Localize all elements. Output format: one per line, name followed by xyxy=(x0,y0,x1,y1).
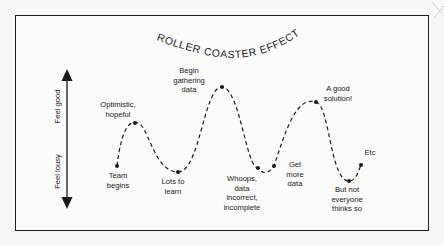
point-etc xyxy=(359,163,363,167)
axis-label-feel-good: Feel good xyxy=(53,87,62,127)
label-whoops: Whoops, data incorrect, incomplete xyxy=(216,174,268,212)
label-team-begins: Team begins xyxy=(98,171,138,190)
label-good-solution: A good solution! xyxy=(318,84,358,103)
point-begin-gathering xyxy=(220,85,224,89)
diagram-title-text: ROLLER COASTER EFFECT xyxy=(156,26,302,60)
mood-axis xyxy=(62,69,73,209)
point-team-begins xyxy=(115,164,119,168)
arrow-down-icon xyxy=(62,197,73,209)
point-optimistic xyxy=(133,121,137,125)
label-lots-to-learn: Lots to learn xyxy=(153,177,193,196)
label-begin-gathering: Begin gathering data xyxy=(166,66,212,95)
axis-label-feel-lousy: Feel lousy xyxy=(53,149,62,195)
label-get-more-data: Get more data xyxy=(281,160,309,189)
point-but-not xyxy=(347,179,351,183)
arrow-up-icon xyxy=(62,69,73,81)
label-etc: Etc xyxy=(360,148,380,158)
corner-x-mark xyxy=(432,2,444,18)
label-optimistic: Optimistic, hopeful xyxy=(90,100,146,119)
label-but-not: But not everyone thinks so xyxy=(324,185,370,214)
point-get-more-data xyxy=(272,164,276,168)
point-whoops xyxy=(256,166,260,170)
diagram-title: ROLLER COASTER EFFECT xyxy=(156,26,302,60)
point-lots-to-learn xyxy=(176,170,180,174)
